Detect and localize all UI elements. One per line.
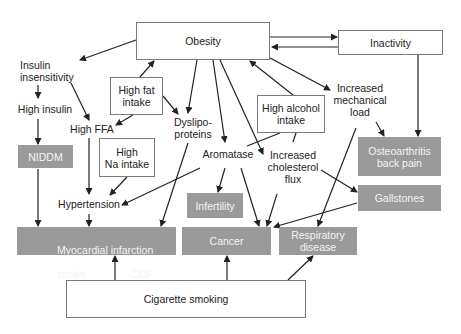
node-increased-cholesterol-flux: Increased cholesterol flux [262,147,324,187]
node-increased-mechanical-load: Increased mechanical load [330,80,390,120]
node-gallstones: Gallstones [358,185,441,211]
node-myocardial-infarction: Myocardial infarction stroke CCF [17,227,176,255]
node-dyslipoproteins: Dyslipo- proteins [168,114,218,142]
node-osteoarthritis-back-pain: Osteoarthritis back pain [358,137,441,176]
node-high-fat-intake: High fat intake [110,77,163,115]
node-obesity: Obesity [136,22,270,60]
node-high-insulin: High insulin [14,100,76,118]
node-inactivity: Inactivity [338,30,443,55]
mi-stroke: stroke [57,268,86,280]
node-respiratory-disease: Respiratory disease [279,227,357,255]
node-cancer: Cancer [182,227,271,255]
node-high-na-intake: High Na intake [99,138,155,177]
node-insulin-insensitivity: Insulin insensitivity [20,58,86,84]
mi-line1: Myocardial infarction [57,244,176,256]
node-hypertension: Hypertension [56,196,122,212]
node-aromatase: Aromatase [200,146,256,162]
node-cigarette-smoking: Cigarette smoking [66,280,306,318]
node-high-alcohol-intake: High alcohol intake [257,95,325,133]
node-infertility: Infertility [187,193,243,218]
mi-ccf: CCF [130,268,152,280]
node-niddm: NIDDM [18,145,73,168]
node-high-ffa: High FFA [68,121,116,137]
